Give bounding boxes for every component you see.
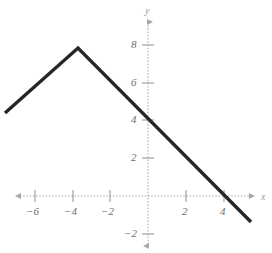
y-tick-label-8: 8: [131, 39, 137, 50]
y-axis-label: y: [145, 6, 149, 16]
y-tick-label-4: 4: [131, 114, 137, 125]
y-axis: [142, 22, 154, 246]
y-tick-label-neg2: −2: [124, 228, 137, 239]
x-axis: [20, 190, 250, 202]
x-tick-label-neg2: −2: [101, 206, 114, 217]
x-tick-label-4: 4: [220, 206, 226, 217]
function-curve: [5, 48, 251, 222]
x-tick-label-2: 2: [182, 206, 188, 217]
x-tick-label-neg6: −6: [26, 206, 39, 217]
graph-figure: −6 −4 −2 2 4 8 6 4 2 −2 y x: [0, 0, 272, 253]
x-axis-label: x: [261, 192, 265, 202]
y-tick-label-6: 6: [131, 77, 137, 88]
x-tick-label-neg4: −4: [64, 206, 77, 217]
y-tick-label-2: 2: [131, 152, 137, 163]
